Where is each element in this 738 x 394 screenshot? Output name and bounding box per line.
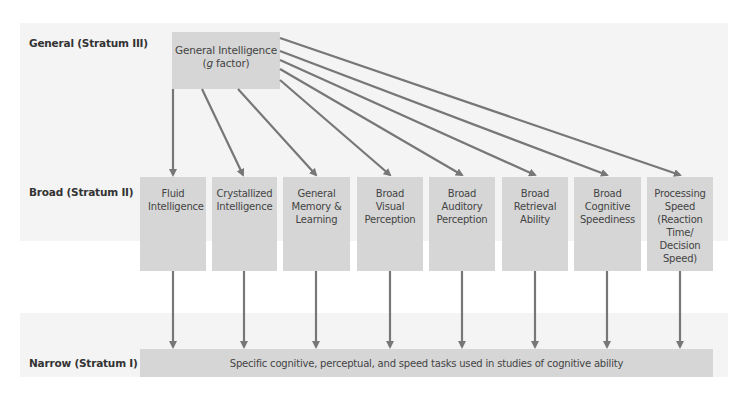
- arrow-g-to-visual: [280, 80, 390, 175]
- arrow-g-to-cognitive-speediness: [280, 51, 607, 175]
- connector-arrows: [0, 0, 738, 394]
- arrow-g-to-processing-speed: [280, 38, 680, 175]
- arrow-g-to-crystallized: [202, 89, 243, 175]
- arrow-g-to-retrieval: [280, 60, 535, 175]
